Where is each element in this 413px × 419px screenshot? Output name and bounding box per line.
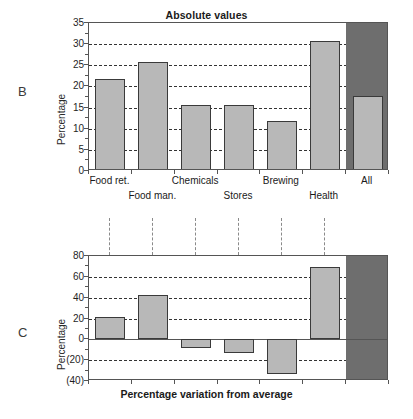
y-minor-tick-mark (85, 265, 88, 266)
y-tick-label: 10 (60, 122, 84, 133)
x-tick-mark (388, 170, 389, 174)
y-tick-label: 20 (52, 312, 84, 323)
bar (353, 96, 383, 170)
y-tick-label: 0 (52, 333, 84, 344)
y-tick-mark (84, 359, 88, 360)
y-tick-mark (84, 318, 88, 319)
bar (138, 295, 168, 340)
x-category-label: Food ret. (89, 175, 129, 186)
bar (138, 62, 168, 170)
y-minor-tick-mark (85, 286, 88, 287)
y-minor-tick-mark (85, 328, 88, 329)
y-tick-mark (84, 297, 88, 298)
y-tick-mark (84, 338, 88, 339)
connector-lines (88, 218, 388, 255)
y-minor-tick-mark (85, 159, 88, 160)
x-tick-mark (217, 170, 218, 174)
gridline (89, 319, 387, 320)
bar (224, 339, 254, 353)
y-minor-tick-mark (85, 54, 88, 55)
highlight-panel-all (346, 256, 388, 379)
bar (267, 121, 297, 170)
y-tick-label: 60 (52, 270, 84, 281)
bar (267, 339, 297, 373)
category-connector-line (281, 218, 282, 255)
x-category-label: Chemicals (172, 175, 219, 186)
category-connector-line (109, 218, 110, 255)
x-tick-mark (259, 380, 260, 384)
y-tick-mark (84, 64, 88, 65)
x-category-label: All (361, 175, 372, 186)
category-connector-line (195, 218, 196, 255)
x-tick-mark (131, 380, 132, 384)
x-category-label: Stores (224, 190, 253, 201)
x-category-label: Health (309, 190, 338, 201)
y-tick-mark (84, 149, 88, 150)
x-tick-mark (388, 380, 389, 384)
y-minor-tick-mark (85, 307, 88, 308)
gridline (89, 298, 387, 299)
category-connector-line (152, 218, 153, 255)
y-tick-label: 20 (60, 80, 84, 91)
x-tick-mark (174, 380, 175, 384)
bar (310, 41, 340, 170)
y-minor-tick-mark (85, 349, 88, 350)
bar (95, 79, 125, 170)
chart-absolute-values: Absolute values Percentage 0510152025303… (0, 0, 413, 210)
gridline (89, 360, 387, 361)
category-connector-line (324, 218, 325, 255)
bar (181, 105, 211, 170)
x-tick-mark (302, 380, 303, 384)
chart-c-x-axis-title: Percentage variation from average (0, 388, 413, 400)
y-tick-label: 30 (60, 38, 84, 49)
y-tick-mark (84, 43, 88, 44)
y-tick-label: (20) (52, 354, 84, 365)
x-category-label: Brewing (263, 175, 299, 186)
gridline (89, 44, 387, 45)
category-connector-line (238, 218, 239, 255)
y-tick-mark (84, 22, 88, 23)
gridline (89, 65, 387, 66)
y-minor-tick-mark (85, 33, 88, 34)
x-tick-mark (174, 170, 175, 174)
chart-percentage-variation: Percentage (40)(20)020406080 Percentage … (0, 210, 413, 419)
gridline (89, 277, 387, 278)
x-tick-mark (217, 380, 218, 384)
chart-c-plot-area (88, 255, 388, 380)
bar (95, 317, 125, 339)
y-tick-label: 25 (60, 59, 84, 70)
bar (310, 267, 340, 339)
y-tick-label: 15 (60, 101, 84, 112)
y-tick-mark (84, 255, 88, 256)
y-minor-tick-mark (85, 75, 88, 76)
x-tick-mark (345, 170, 346, 174)
y-tick-mark (84, 128, 88, 129)
y-tick-mark (84, 276, 88, 277)
x-tick-mark (88, 380, 89, 384)
chart-b-plot-area (88, 22, 388, 170)
x-tick-mark (259, 170, 260, 174)
gridline (89, 86, 387, 87)
y-tick-label: (40) (52, 375, 84, 386)
y-minor-tick-mark (85, 96, 88, 97)
x-category-label: Food man. (128, 190, 176, 201)
bar (224, 105, 254, 170)
x-tick-mark (302, 170, 303, 174)
bar (181, 339, 211, 347)
y-tick-label: 5 (60, 143, 84, 154)
y-tick-label: 80 (52, 250, 84, 261)
y-tick-mark (84, 85, 88, 86)
y-tick-label: 40 (52, 291, 84, 302)
x-tick-mark (88, 170, 89, 174)
y-tick-mark (84, 107, 88, 108)
x-tick-mark (345, 380, 346, 384)
y-minor-tick-mark (85, 138, 88, 139)
x-tick-mark (131, 170, 132, 174)
y-tick-label: 35 (60, 17, 84, 28)
y-minor-tick-mark (85, 117, 88, 118)
y-tick-label: 0 (60, 165, 84, 176)
y-minor-tick-mark (85, 370, 88, 371)
